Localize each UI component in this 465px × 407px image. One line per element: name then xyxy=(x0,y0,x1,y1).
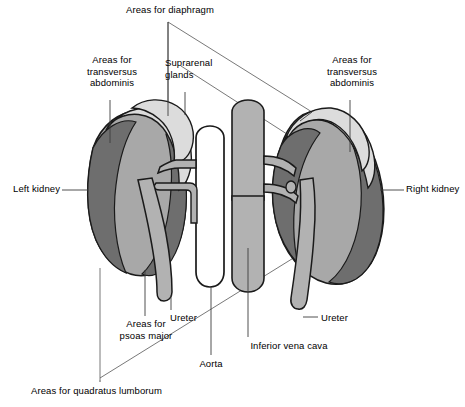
label-inferior-vena-cava: Inferior vena cava xyxy=(243,340,335,352)
label-ureter-left: Ureter xyxy=(170,312,214,324)
label-areas-for-transversus-abdominis-left: Areas for transversus abdominis xyxy=(62,54,162,89)
label-left-kidney: Left kidney xyxy=(0,183,60,195)
anatomical-figure: Areas for diaphragm Areas for transversu… xyxy=(0,0,465,407)
label-suprarenal-glands: Suprarenal glands xyxy=(165,57,243,80)
label-areas-for-transversus-abdominis-right: Areas for transversus abdominis xyxy=(302,54,402,89)
label-right-kidney: Right kidney xyxy=(406,183,465,195)
label-areas-for-quadratus-lumborum: Areas for quadratus lumborum xyxy=(31,385,201,397)
aorta-trunk xyxy=(196,126,224,287)
label-aorta: Aorta xyxy=(186,358,236,370)
label-areas-for-diaphragm: Areas for diaphragm xyxy=(110,4,230,16)
ivc-upper-segment xyxy=(232,100,264,200)
label-ureter-right: Ureter xyxy=(321,312,365,324)
right-hilum-vessel-node xyxy=(286,181,296,193)
